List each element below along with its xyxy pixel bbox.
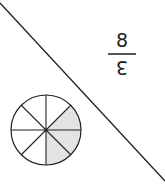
fraction-bar	[108, 53, 136, 55]
fraction-top-digit: 8	[108, 30, 136, 50]
shaded-slice-1	[46, 105, 81, 130]
fraction-circle	[11, 95, 81, 165]
diagram-canvas	[0, 0, 165, 184]
diagonal-divider-line	[0, 3, 165, 181]
fraction-bottom-digit: 3	[108, 58, 136, 78]
fraction-label: 8 3	[108, 30, 136, 78]
center-dot	[45, 129, 48, 132]
